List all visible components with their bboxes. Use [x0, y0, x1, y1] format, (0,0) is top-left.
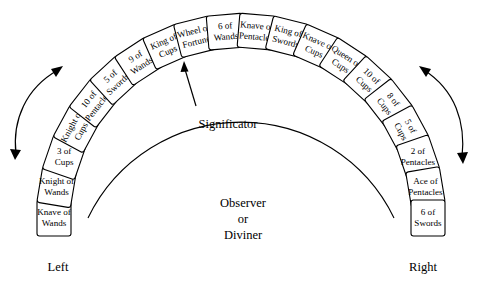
card-label-line-1: Knave of: [37, 207, 72, 217]
tarot-card[interactable]: 6 ofSwords: [411, 200, 445, 236]
card-label-line-2: Wands: [213, 31, 239, 43]
card-label-line-1: 6 of: [421, 207, 436, 217]
center-line-2: or: [238, 212, 249, 226]
card-label-line-1: Ace of: [413, 176, 438, 186]
card-label-line-2: Pentacles: [408, 187, 443, 197]
significator-arrowhead: [181, 61, 189, 72]
card-label-line-2: Swords: [414, 218, 442, 228]
right-arrow-head-top: [419, 66, 431, 77]
right-arrow-head-bottom: [457, 152, 468, 164]
right-label: Right: [409, 260, 437, 274]
left-arrow-head-top: [51, 66, 63, 77]
card-label-line-1: 2 of: [411, 146, 426, 156]
significator-label: Significator: [198, 117, 258, 131]
card-label-group: 3 ofCups: [55, 146, 74, 167]
card-label-line-2: Pentacles: [401, 157, 436, 167]
tarot-spread-diagram: Knave ofWandsKnight ofWands3 ofCupsKnigh…: [0, 0, 481, 283]
significator-annotation: Significator: [181, 61, 259, 131]
left-label: Left: [48, 260, 69, 274]
center-line-1: Observer: [220, 196, 267, 210]
left-arrow-head-bottom: [10, 149, 21, 160]
card-label-line-2: Cups: [55, 157, 74, 167]
card-label-line-2: Wands: [42, 218, 67, 228]
center-observer-text: Observer or Diviner: [220, 196, 267, 242]
center-line-3: Diviner: [224, 228, 263, 242]
card-label-line-2: Wands: [44, 187, 69, 197]
card-label-line-1: 6 of: [217, 20, 233, 31]
card-label-line-1: 3 of: [57, 146, 72, 156]
significator-leader-line: [184, 66, 196, 106]
